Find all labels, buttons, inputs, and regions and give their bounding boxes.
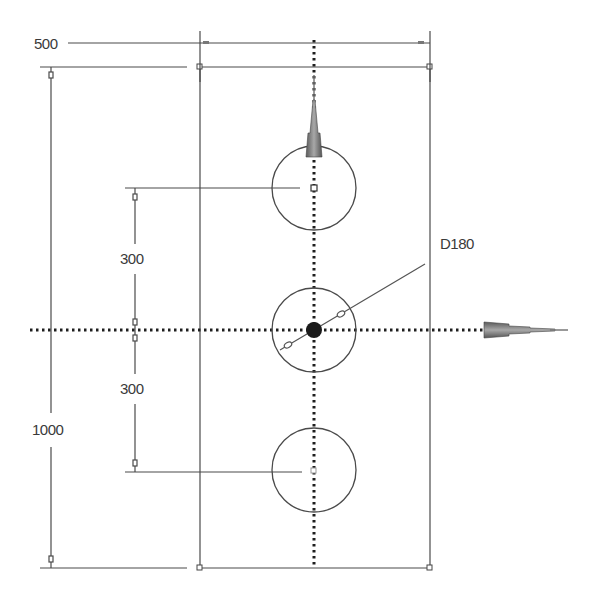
width-dimension-label[interactable]: 500 [34,36,58,52]
cad-sketch-canvas[interactable] [0,0,592,593]
height-dimension-label[interactable]: 1000 [32,422,63,438]
diameter-leader[interactable] [280,264,425,350]
height-dimension[interactable] [40,67,187,568]
y-axis-arrow-icon[interactable] [306,75,322,157]
hole-spacing-label-upper[interactable]: 300 [120,251,144,267]
x-axis-arrow-icon[interactable] [484,322,568,338]
hole-spacing-label-lower[interactable]: 300 [120,381,144,397]
hole-bottom-center-point[interactable] [311,468,316,473]
hole-top-center-point[interactable] [311,185,317,191]
diameter-label[interactable]: D180 [440,236,474,252]
origin-point-icon[interactable] [306,322,322,338]
width-dimension[interactable] [68,31,430,82]
centerlines[interactable] [30,40,485,568]
